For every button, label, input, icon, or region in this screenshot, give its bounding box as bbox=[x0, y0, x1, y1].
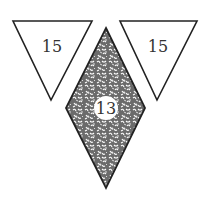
center-diamond-label: 13 bbox=[96, 99, 116, 118]
right-triangle-label: 15 bbox=[148, 37, 168, 56]
shape-puzzle-diagram: 15 15 13 bbox=[0, 0, 203, 203]
left-triangle-label: 15 bbox=[42, 37, 62, 56]
center-diamond: 13 bbox=[66, 28, 145, 188]
